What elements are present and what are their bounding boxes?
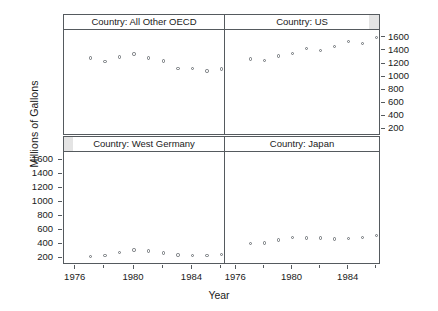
y-axis-tick-label: 1200 <box>19 182 53 192</box>
y-axis-tick <box>58 257 62 258</box>
y-axis-tick <box>381 89 385 90</box>
y-axis-tick-label: 200 <box>19 252 53 262</box>
y-axis-tick-label: 200 <box>388 123 422 133</box>
y-axis-tick <box>381 128 385 129</box>
y-axis-tick <box>381 102 385 103</box>
y-axis-tick <box>58 215 62 216</box>
y-axis-tick-label: 400 <box>388 110 422 120</box>
x-axis-minor-tick <box>319 265 320 268</box>
y-axis-tick-label: 800 <box>388 84 422 94</box>
x-axis-tick-label: 1984 <box>181 272 202 282</box>
y-axis-tick <box>58 187 62 188</box>
y-axis-tick <box>381 49 385 50</box>
y-axis-tick-label: 1400 <box>388 45 422 55</box>
y-axis-tick-label: 1200 <box>388 58 422 68</box>
y-axis-tick-label: 1600 <box>19 154 53 164</box>
chart-figure: Millions of Gallons Year Country: All Ot… <box>0 0 438 311</box>
y-axis-tick-label: 1000 <box>388 71 422 81</box>
x-axis-tick <box>191 265 192 269</box>
y-axis-tick <box>381 63 385 64</box>
y-axis-tick <box>58 159 62 160</box>
axes-layer: 2002004004006006008008001000100012001200… <box>0 0 438 311</box>
x-axis-tick-label: 1980 <box>281 272 302 282</box>
y-axis-tick <box>58 173 62 174</box>
x-axis-minor-tick <box>220 265 221 268</box>
y-axis-tick-label: 1600 <box>388 32 422 42</box>
x-axis-tick <box>291 265 292 269</box>
x-axis-tick <box>347 265 348 269</box>
y-axis-tick-label: 400 <box>19 238 53 248</box>
y-axis-tick-label: 1400 <box>19 168 53 178</box>
x-axis-minor-tick <box>103 265 104 268</box>
y-axis-tick-label: 1000 <box>19 196 53 206</box>
y-axis-tick <box>58 229 62 230</box>
x-axis-tick <box>133 265 134 269</box>
y-axis-tick-label: 800 <box>19 210 53 220</box>
y-axis-tick <box>58 201 62 202</box>
x-axis-tick <box>74 265 75 269</box>
x-axis-minor-tick <box>375 265 376 268</box>
y-axis-tick <box>381 36 385 37</box>
y-axis-tick-label: 600 <box>388 97 422 107</box>
y-axis-tick-label: 600 <box>19 224 53 234</box>
x-axis-tick-label: 1976 <box>225 272 246 282</box>
y-axis-tick <box>381 76 385 77</box>
x-axis-tick-label: 1980 <box>122 272 143 282</box>
y-axis-tick <box>381 115 385 116</box>
x-axis-tick-label: 1984 <box>337 272 358 282</box>
x-axis-minor-tick <box>263 265 264 268</box>
x-axis-tick <box>235 265 236 269</box>
x-axis-tick-label: 1976 <box>64 272 85 282</box>
x-axis-minor-tick <box>162 265 163 268</box>
y-axis-tick <box>58 243 62 244</box>
